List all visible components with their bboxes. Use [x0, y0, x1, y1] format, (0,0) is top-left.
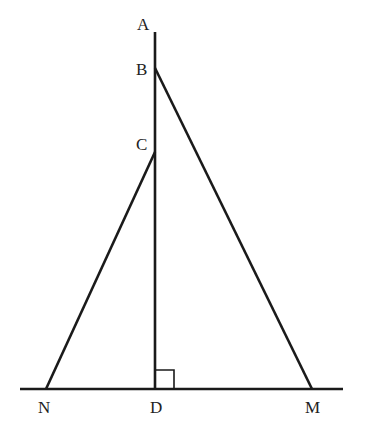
- segment-cn: [46, 152, 155, 389]
- label-b: B: [136, 60, 147, 79]
- geometry-diagram: A B C N D M: [0, 0, 365, 433]
- label-d: D: [150, 398, 162, 417]
- segment-bm: [155, 68, 312, 389]
- label-c: C: [136, 135, 147, 154]
- right-angle-marker: [155, 370, 174, 389]
- label-n: N: [38, 398, 50, 417]
- label-m: M: [305, 398, 320, 417]
- label-a: A: [137, 15, 150, 34]
